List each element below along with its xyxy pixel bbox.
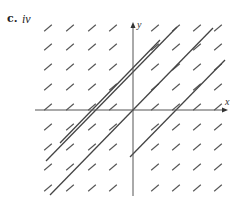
- slope-dash: [66, 64, 74, 70]
- slope-dash: [109, 25, 117, 31]
- solution-line: [50, 28, 213, 195]
- slope-dash: [214, 185, 222, 191]
- slope-dash: [151, 164, 159, 170]
- slope-dash: [44, 44, 52, 50]
- axes: x y: [35, 19, 230, 196]
- x-axis-label: x: [224, 96, 230, 107]
- slope-dash: [66, 144, 74, 150]
- slope-dash: [44, 84, 52, 90]
- slope-dash: [88, 185, 96, 191]
- slope-dash: [172, 164, 180, 170]
- slope-dash: [109, 64, 117, 70]
- slope-dash: [193, 185, 201, 191]
- slope-dash: [193, 64, 201, 70]
- slope-dash: [66, 185, 74, 191]
- slope-dash: [151, 25, 159, 31]
- slope-dash: [214, 44, 222, 50]
- slope-dash: [88, 84, 96, 90]
- slope-dash: [151, 64, 159, 70]
- slope-dash: [193, 25, 201, 31]
- solution-curves: [46, 27, 225, 195]
- slope-dash: [214, 164, 222, 170]
- slope-dash: [214, 104, 222, 110]
- slope-dash: [151, 104, 159, 110]
- slope-dash: [66, 84, 74, 90]
- slope-dash: [44, 25, 52, 31]
- slope-dash: [214, 124, 222, 130]
- solution-line: [46, 27, 177, 161]
- slope-dash: [66, 164, 74, 170]
- slope-dash: [193, 104, 201, 110]
- slope-dash: [66, 104, 74, 110]
- slope-dash: [109, 164, 117, 170]
- slope-dash: [172, 84, 180, 90]
- y-axis-arrow-icon: [131, 22, 136, 28]
- slope-dash: [109, 104, 117, 110]
- slope-dash: [88, 64, 96, 70]
- slope-dash: [44, 64, 52, 70]
- slope-dash: [109, 185, 117, 191]
- slope-dash: [88, 44, 96, 50]
- slope-dash: [172, 124, 180, 130]
- slope-dash: [44, 164, 52, 170]
- slope-dash: [66, 44, 74, 50]
- slope-dash: [172, 44, 180, 50]
- slope-dash: [44, 124, 52, 130]
- solution-line: [130, 60, 225, 157]
- slope-dash: [44, 144, 52, 150]
- y-axis-label: y: [136, 19, 142, 30]
- slope-dash: [193, 124, 201, 130]
- slope-dash: [214, 144, 222, 150]
- slope-dash: [172, 185, 180, 191]
- slope-dash: [109, 44, 117, 50]
- slope-field-diagram: x y: [0, 0, 238, 206]
- slope-dash: [109, 144, 117, 150]
- slope-dash: [44, 104, 52, 110]
- slope-dash: [66, 25, 74, 31]
- slope-dash: [193, 144, 201, 150]
- slope-dash: [151, 144, 159, 150]
- solution-line: [60, 40, 160, 143]
- slope-dash: [88, 25, 96, 31]
- slope-dash: [214, 84, 222, 90]
- slope-dash: [172, 144, 180, 150]
- x-axis-arrow-icon: [222, 108, 228, 113]
- slope-dash: [193, 164, 201, 170]
- slope-dash: [88, 164, 96, 170]
- slope-dash: [214, 25, 222, 31]
- slope-dash: [151, 185, 159, 191]
- slope-dash: [44, 185, 52, 191]
- slope-dash: [88, 124, 96, 130]
